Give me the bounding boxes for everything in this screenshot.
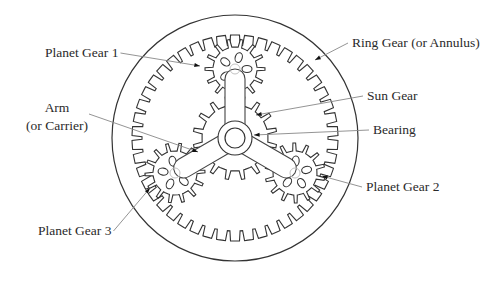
label-or-carrier: (or Carrier) [26,118,88,133]
label-sun-gear: Sun Gear [367,88,418,103]
label-planet-gear-1: Planet Gear 1 [45,45,118,60]
bearing-outer [218,121,252,155]
label-planet-gear-3: Planet Gear 3 [38,223,112,238]
leader-line [113,188,150,231]
planet-gear-web [242,66,252,73]
planetary-gear-diagram: Planet Gear 1 Ring Gear (or Annulus) Sun… [0,0,503,281]
label-bearing: Bearing [373,122,416,137]
label-planet-gear-2: Planet Gear 2 [366,179,439,194]
arrowhead-icon [315,56,321,60]
label-arm: Arm [45,100,70,115]
label-ring-gear: Ring Gear (or Annulus) [352,35,480,50]
